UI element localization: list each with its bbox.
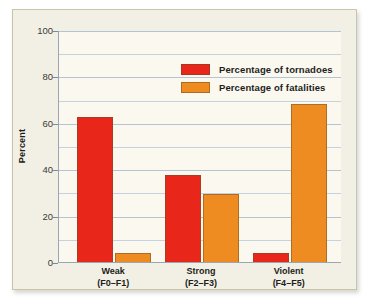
y-tick-mark-0 [53, 263, 58, 264]
y-tick-marks [19, 31, 53, 263]
chart-card: Percent 100 80 60 40 20 0 [12, 9, 357, 290]
x-label-violent: Violent (F4–F5) [249, 266, 329, 289]
bar-violent-tornadoes [253, 253, 289, 262]
x-label-weak: Weak (F0–F1) [73, 266, 153, 289]
y-axis-labels: Percent 100 80 60 40 20 0 [19, 31, 53, 263]
x-label-strong-line1: Strong [186, 266, 215, 276]
x-label-weak-line1: Weak [101, 266, 124, 276]
x-label-strong: Strong (F2–F3) [161, 266, 241, 289]
x-label-violent-line2: (F4–F5) [249, 278, 329, 290]
x-label-violent-line1: Violent [274, 266, 304, 276]
x-axis-labels: Weak (F0–F1) Strong (F2–F3) Violent (F4–… [58, 266, 341, 296]
chart-figure: Percent 100 80 60 40 20 0 [0, 0, 372, 308]
x-label-weak-line2: (F0–F1) [73, 278, 153, 290]
x-label-strong-line2: (F2–F3) [161, 278, 241, 290]
bar-violent-fatalities [291, 104, 327, 262]
plot-area: Percentage of tornadoes Percentage of fa… [58, 31, 341, 263]
bar-group-violent [59, 31, 342, 262]
